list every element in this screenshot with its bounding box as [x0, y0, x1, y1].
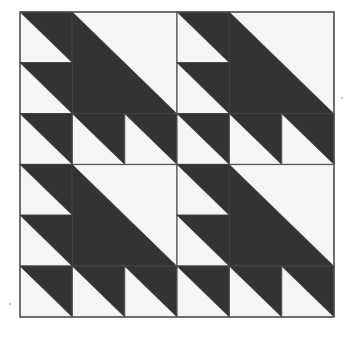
tile-layer — [20, 12, 334, 317]
speck-lower-left — [9, 303, 11, 305]
quilt-pattern-svg — [0, 0, 351, 340]
pattern-canvas — [0, 0, 351, 340]
speck-right-margin — [341, 97, 343, 99]
